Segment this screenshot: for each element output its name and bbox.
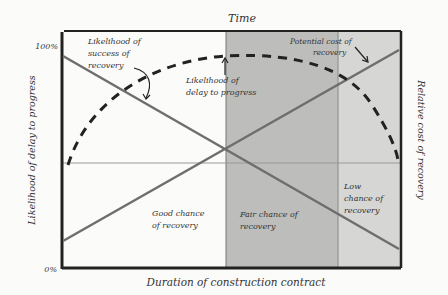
svg-text:Low: Low: [343, 182, 361, 191]
svg-text:recovery: recovery: [313, 48, 347, 57]
svg-text:success of: success of: [88, 49, 132, 58]
svg-text:Good chance: Good chance: [152, 209, 205, 218]
y-axis-left-label: Likelihood of delay to progress: [26, 75, 37, 226]
diagram: Time Duration of construction contract 1…: [0, 0, 448, 295]
svg-text:of recovery: of recovery: [152, 221, 198, 230]
tick-0: 0%: [44, 265, 57, 274]
svg-text:Potential cost of: Potential cost of: [289, 37, 353, 46]
y-axis-right-label: Relative cost of recovery: [416, 79, 427, 200]
svg-text:Likelihood of: Likelihood of: [185, 76, 241, 85]
svg-text:Likelihood of: Likelihood of: [87, 37, 143, 46]
region-fair: [226, 32, 338, 268]
chart-title: Time: [228, 12, 256, 25]
svg-text:recovery: recovery: [240, 222, 276, 231]
tick-100: 100%: [35, 42, 58, 51]
svg-text:delay to progress: delay to progress: [186, 88, 256, 97]
svg-text:Fair chance of: Fair chance of: [239, 210, 300, 219]
svg-text:recovery: recovery: [88, 61, 124, 70]
svg-text:chance of: chance of: [344, 194, 385, 203]
svg-text:recovery: recovery: [344, 206, 380, 215]
x-axis-label: Duration of construction contract: [146, 276, 327, 288]
